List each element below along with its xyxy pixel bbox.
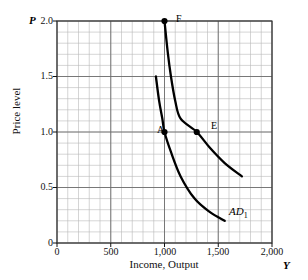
point-label-a: A xyxy=(157,124,164,135)
chart-figure: P Y 2.0 1.5 1.0 0.5 0 0 500 1,000 1,500 … xyxy=(0,0,308,280)
y-tick-label-1-0: 1.0 xyxy=(19,126,53,137)
curve-ad0 xyxy=(156,77,225,221)
x-tick-label-2000: 2,000 xyxy=(250,246,294,257)
point-label-f: F xyxy=(176,13,182,24)
point-label-e: E xyxy=(211,120,217,131)
x-tick-label-1500: 1,500 xyxy=(196,246,240,257)
x-axis-symbol: Y xyxy=(283,259,290,271)
y-tick-label-2-0: 2.0 xyxy=(19,15,53,26)
x-axis-title: Income, Output xyxy=(104,258,224,270)
curve-label-ad-subscript: 1 xyxy=(244,211,248,220)
x-tick-label-0: 0 xyxy=(35,246,79,257)
x-tick-label-500: 500 xyxy=(89,246,133,257)
curve-label-ad-text: AD xyxy=(229,205,244,217)
y-tick-label-0-5: 0.5 xyxy=(19,181,53,192)
x-tick-label-1000: 1,000 xyxy=(143,246,187,257)
curve-label-ad1: AD1 xyxy=(229,205,248,220)
y-axis-title: Price level xyxy=(10,71,22,151)
y-tick-label-1-5: 1.5 xyxy=(19,70,53,81)
